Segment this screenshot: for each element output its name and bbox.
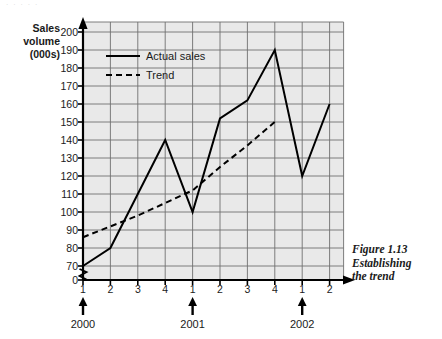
plot-background [83, 22, 344, 280]
year-marker-arrowhead [79, 297, 88, 306]
figure-caption: Figure 1.13 Establishing the trend [352, 243, 440, 284]
year-marker-arrowhead [188, 297, 197, 306]
x-axis-year-label: 2002 [280, 318, 324, 330]
figure-caption-line-3: the trend [352, 270, 440, 284]
year-marker-arrows [79, 297, 307, 315]
legend-label-actual-sales: Actual sales [146, 50, 205, 62]
x-axis-tick-label: 1 [185, 284, 201, 295]
x-axis-tick-label: 2 [102, 284, 118, 295]
x-axis-tick-label: 3 [239, 284, 255, 295]
x-axis-tick-label: 1 [294, 284, 310, 295]
figure-root: · · · · · Sales volume (000s) 0708090100… [0, 0, 442, 339]
year-marker-arrowhead [298, 297, 307, 306]
x-axis-year-label: 2001 [171, 318, 215, 330]
x-axis-tick-label: 2 [212, 284, 228, 295]
figure-caption-line-2: Establishing [352, 257, 440, 271]
x-axis-tick-label: 4 [157, 284, 173, 295]
x-axis-tick-label: 4 [267, 284, 283, 295]
legend-label-trend: Trend [146, 69, 174, 81]
figure-caption-line-1: Figure 1.13 [352, 243, 440, 257]
x-axis-year-label: 2000 [61, 318, 105, 330]
x-axis-tick-label: 1 [75, 284, 91, 295]
plot-background-rect [83, 22, 344, 280]
x-axis-tick-label: 3 [130, 284, 146, 295]
x-axis-tick-label: 2 [322, 284, 338, 295]
